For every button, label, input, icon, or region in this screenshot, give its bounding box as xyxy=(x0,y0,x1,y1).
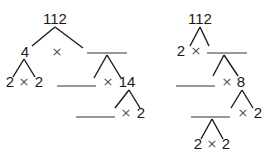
right-factor-tree: 112 2 × × 8 × 2 2 × 2 xyxy=(176,10,262,152)
times-sign: × xyxy=(121,105,132,120)
left-l2a-left-value: 2 xyxy=(6,73,14,90)
left-l3-right-value: 2 xyxy=(137,104,145,121)
right-root-value: 112 xyxy=(188,10,212,27)
times-sign: × xyxy=(207,136,218,151)
times-sign: × xyxy=(238,105,249,120)
times-sign: × xyxy=(52,44,63,59)
right-l4-right-value: 2 xyxy=(222,135,230,152)
left-factor-tree: 112 4 × 2 × 2 × 14 × 2 xyxy=(6,10,145,121)
left-l1-left-value: 4 xyxy=(21,43,29,60)
left-l2b-right-value: 14 xyxy=(119,73,136,90)
branch-line xyxy=(213,55,224,76)
factor-trees-diagram: 112 4 × 2 × 2 × 14 × 2 112 2 × xyxy=(0,0,269,163)
right-l3-right-value: 2 xyxy=(254,104,262,121)
times-sign: × xyxy=(103,74,114,89)
times-sign: × xyxy=(191,43,202,58)
right-l2-right-value: 8 xyxy=(237,73,245,90)
right-l4-left-value: 2 xyxy=(194,135,202,152)
left-root-value: 112 xyxy=(43,10,67,27)
times-sign: × xyxy=(19,74,30,89)
right-l1-left-value: 2 xyxy=(177,42,185,59)
times-sign: × xyxy=(222,74,233,89)
left-l2a-right-value: 2 xyxy=(35,73,43,90)
